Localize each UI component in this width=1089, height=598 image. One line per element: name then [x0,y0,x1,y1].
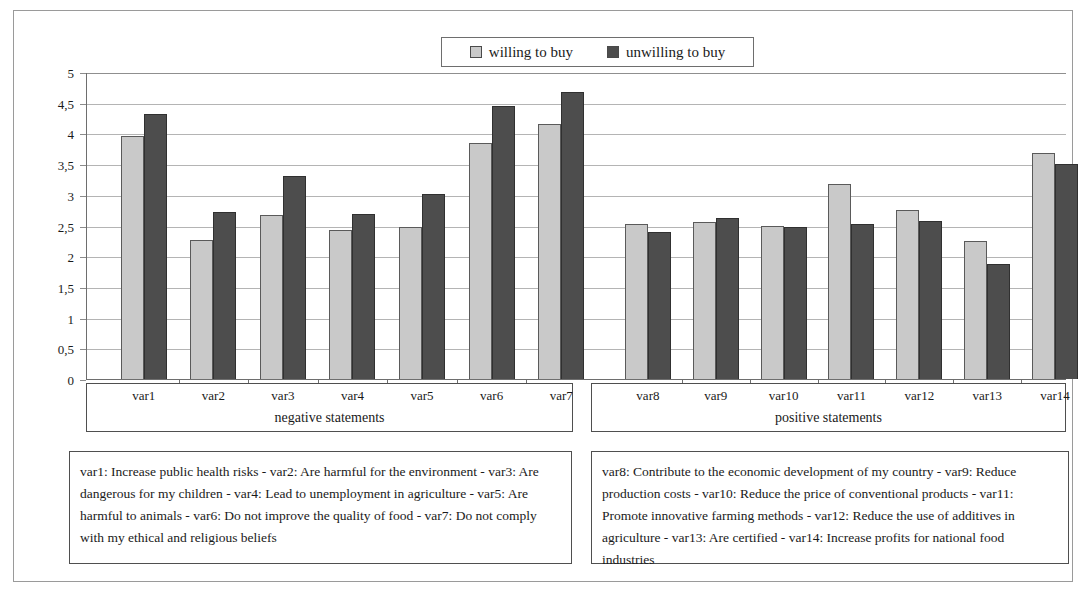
y-axis-tick-label: 4,5 [58,97,74,110]
bars-layer [87,73,1066,379]
y-axis-tick-label: 5 [68,67,75,80]
bar-var12-unwilling [919,221,942,379]
x-axis-category-label: var5 [411,389,434,402]
bar-var13-willing [964,241,987,379]
bar-var5-willing [399,227,422,379]
legend-label-unwilling: unwilling to buy [626,45,725,60]
y-axis-tick-mark [80,380,86,381]
y-axis-tick-label: 1,5 [58,281,74,294]
bar-var7-willing [538,124,561,379]
bar-var10-willing [761,226,784,380]
bar-group [750,73,818,379]
x-axis-category-label: var9 [704,389,727,402]
bar-group [682,73,750,379]
y-axis-tick-label: 1 [68,312,75,325]
legend-label-willing: willing to buy [489,45,573,60]
bar-var4-unwilling [352,214,375,379]
bar-var6-unwilling [492,106,515,379]
category-labels-positive: var8var9var10var11var12var13var14 [592,384,1065,409]
bar-var8-unwilling [648,232,671,379]
x-axis-category-label: var2 [202,389,225,402]
legend-swatch-icon-willing [470,46,482,58]
bar-var2-willing [190,240,213,379]
bar-var5-unwilling [422,194,445,379]
bar-var3-willing [260,215,283,379]
bar-group [818,73,886,379]
bar-var14-unwilling [1055,164,1078,379]
bar-var8-willing [625,224,648,379]
chart-legend: willing to buy unwilling to buy [441,37,754,67]
bar-var10-unwilling [784,227,807,379]
y-axis-tick-label: 0 [68,374,75,387]
bar-var6-willing [469,143,492,379]
x-axis-category-label: var10 [769,389,799,402]
bar-group [109,73,179,379]
bar-var13-unwilling [987,264,1010,379]
bar-var7-unwilling [561,92,584,379]
y-axis-tick-label: 0,5 [58,343,74,356]
group-title-negative: negative statements [87,411,572,425]
bar-var12-willing [896,210,919,379]
bar-var11-unwilling [851,224,874,379]
bar-var2-unwilling [213,212,236,379]
description-box-positive: var8: Contribute to the economic develop… [591,451,1069,564]
x-axis-category-label: var8 [636,389,659,402]
bar-group [614,73,682,379]
bar-group [179,73,249,379]
bar-var1-willing [121,136,144,379]
x-axis-category-label: var11 [837,389,866,402]
plot-canvas [86,73,1066,380]
bar-var11-willing [828,184,851,379]
y-axis-tick-label: 3,5 [58,159,74,172]
category-labels-negative: var1var2var3var4var5var6var7 [87,384,572,409]
bar-group [457,73,527,379]
x-axis-category-label: var1 [132,389,155,402]
y-axis: 00,511,522,533,544,55 [36,73,80,380]
x-axis-category-label: var7 [550,389,573,402]
x-axis-category-label: var3 [271,389,294,402]
bar-group [1021,73,1089,379]
bar-group [885,73,953,379]
screenshot-page: willing to buy unwilling to buy 00,511,5… [0,0,1089,598]
bar-group [953,73,1021,379]
y-axis-tick-label: 3 [68,189,75,202]
bar-group [387,73,457,379]
bar-var9-unwilling [716,218,739,379]
x-axis-category-label: var4 [341,389,364,402]
bar-var3-unwilling [283,176,306,379]
bar-var9-willing [693,222,716,379]
y-axis-tick-label: 2 [68,251,75,264]
group-title-positive: positive statements [592,411,1065,425]
category-box-positive: var8var9var10var11var12var13var14 positi… [591,383,1066,432]
y-axis-tick-label: 2,5 [58,220,74,233]
description-box-negative: var1: Increase public health risks - var… [69,451,572,564]
x-axis-category-label: var12 [905,389,935,402]
y-axis-tick-label: 4 [68,128,75,141]
bar-group [248,73,318,379]
bar-group [318,73,388,379]
legend-entry-unwilling: unwilling to buy [607,45,725,60]
x-axis-category-label: var14 [1040,389,1070,402]
bar-var14-willing [1032,153,1055,379]
x-axis-category-label: var13 [972,389,1002,402]
legend-swatch-icon-unwilling [607,46,619,58]
x-axis-category-label: var6 [480,389,503,402]
bar-group [526,73,596,379]
legend-entry-willing: willing to buy [470,45,573,60]
figure-frame: willing to buy unwilling to buy 00,511,5… [13,10,1073,582]
category-box-negative: var1var2var3var4var5var6var7 negative st… [86,383,573,432]
plot-area: 00,511,522,533,544,55 [36,73,1066,380]
bar-var1-unwilling [144,114,167,379]
bar-var4-willing [329,230,352,379]
